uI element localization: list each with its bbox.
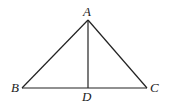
label-b: B xyxy=(11,80,19,95)
segment-ac xyxy=(88,20,147,88)
segment-ab xyxy=(22,20,88,88)
label-a: A xyxy=(82,4,91,19)
label-c: C xyxy=(150,80,159,95)
triangle-diagram: A B C D xyxy=(0,0,169,105)
label-d: D xyxy=(81,89,92,104)
